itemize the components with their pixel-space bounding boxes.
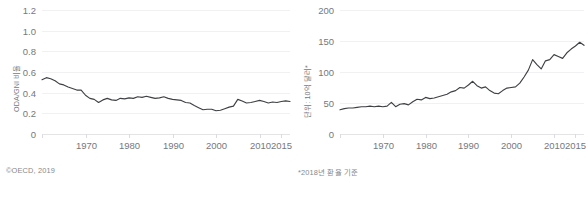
x-tick-label: 2010 [544,140,565,151]
x-tick-label: 2000 [206,140,227,151]
y-tick-label: 100 [318,67,334,78]
x-tick-label: 1980 [119,140,140,151]
y-tick-label: 1.0 [23,26,36,37]
chart-caption-right: *2018년 환율 기준 [298,166,358,177]
data-series-line [42,78,290,111]
chart-area-right: 050100150200197019801990200020102015 [294,0,588,160]
y-tick-label: 0.6 [23,67,36,78]
y-axis-title-right: 단위: 10억 달러* [304,65,311,118]
data-series-line [340,42,584,110]
y-tick-label: 150 [318,36,334,47]
y-tick-label: 1.2 [23,5,36,16]
x-tick-label: 1990 [163,140,184,151]
x-tick-label: 2015 [565,140,586,151]
panel-oda-gni-ratio: 00.20.40.60.81.01.2197019801990200020102… [0,0,294,197]
panel-oda-volume: 050100150200197019801990200020102015 단위:… [294,0,588,197]
x-tick-label: 2015 [271,140,292,151]
x-tick-label: 2000 [501,140,522,151]
y-tick-label: 50 [323,98,334,109]
y-tick-label: 0.8 [23,46,36,57]
two-panel-line-chart-figure: 00.20.40.60.81.01.2197019801990200020102… [0,0,588,197]
x-tick-label: 2010 [250,140,271,151]
chart-caption-left: ©OECD, 2019 [6,166,55,175]
x-tick-label: 1970 [373,140,394,151]
y-tick-label: 0.4 [23,88,36,99]
x-tick-label: 1970 [76,140,97,151]
chart-area-left: 00.20.40.60.81.01.2197019801990200020102… [0,0,294,160]
x-tick-label: 1980 [416,140,437,151]
y-axis-title-left: ODA/GNI 비율 [13,65,20,112]
y-tick-label: 0 [31,129,36,140]
y-tick-label: 0 [329,129,334,140]
y-tick-label: 0.2 [23,108,36,119]
line-chart-oda-volume: 050100150200197019801990200020102015 [294,0,588,160]
y-tick-label: 200 [318,5,334,16]
line-chart-oda-gni-ratio: 00.20.40.60.81.01.2197019801990200020102… [0,0,294,160]
x-tick-label: 1990 [458,140,479,151]
